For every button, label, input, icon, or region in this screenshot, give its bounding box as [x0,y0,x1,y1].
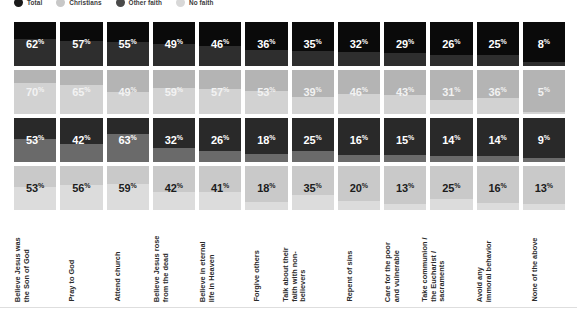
cell-value-label: 41% [199,182,241,195]
percent-sign: % [362,134,368,141]
percent-sign: % [84,86,90,93]
cell-value-label: 70% [14,86,56,99]
cell-value-label: 43% [384,86,426,99]
value-cell: 59% [107,166,149,210]
cell-value-label: 31% [430,86,472,99]
percent-sign: % [130,38,136,45]
value-cell: 32% [338,22,380,66]
value-cell: 49% [153,22,195,66]
percent-sign: % [454,86,460,93]
percent-sign: % [547,182,553,189]
value-cell: 18% [245,118,287,162]
cell-value-label: 8% [523,38,565,51]
category-label: Believe Jesus rose from the dead [153,214,170,302]
percent-sign: % [84,182,90,189]
cell-value-label: 18% [245,134,287,147]
cell-fill-bar [430,100,472,114]
cell-value-label: 26% [199,134,241,147]
legend-item[interactable]: Total [14,0,42,7]
value-cell: 15% [384,118,426,162]
percent-sign: % [269,182,275,189]
cell-value-label: 39% [292,86,334,99]
cell-fill-bar [430,156,472,162]
cell-value-label: 59% [153,86,195,99]
cell-value-label: 65% [60,86,102,99]
percent-sign: % [269,38,275,45]
category-label-cell: Pray to God [60,214,102,302]
legend-item-label: No faith [189,0,214,6]
value-cell: 62% [14,22,56,66]
percent-sign: % [38,86,44,93]
percent-sign: % [408,182,414,189]
category-label: Talk about their faith with non- believe… [283,214,309,302]
value-cell: 35% [292,166,334,210]
chart-legend: TotalChristiansOther faithNo faith [14,0,214,8]
cell-value-label: 25% [292,134,334,147]
value-cell: 59% [153,70,195,114]
value-cell: 5% [523,70,565,114]
cell-fill-bar [477,203,519,210]
category-label: Avoid any immoral behavior [476,214,493,302]
value-cell: 57% [199,70,241,114]
percent-sign: % [362,86,368,93]
value-cell: 8% [523,22,565,66]
cell-value-label: 25% [430,182,472,195]
percent-sign: % [544,86,550,93]
cell-fill-bar [384,204,426,210]
value-cell: 43% [384,70,426,114]
percent-sign: % [500,182,506,189]
cell-value-label: 53% [14,134,56,147]
cell-fill-bar [292,151,334,162]
baseline-divider [0,307,577,308]
percent-sign: % [177,182,183,189]
legend-item-label: Christians [69,0,101,6]
category-label: Believe in eternal life in Heaven [199,214,216,302]
percent-sign: % [500,86,506,93]
cell-fill-bar [384,155,426,162]
category-label-row: Believe Jesus was the Son of GodPray to … [14,214,565,302]
legend-swatch-icon [56,0,65,7]
cell-value-label: 57% [199,86,241,99]
value-cell: 9% [523,118,565,162]
category-label-cell: Believe in eternal life in Heaven [199,214,241,302]
cell-fill-bar [477,98,519,114]
cell-fill-bar [523,62,565,66]
category-label: Forgive others [254,214,263,302]
cell-value-label: 42% [60,134,102,147]
legend-swatch-icon [14,0,23,7]
value-cell: 46% [338,70,380,114]
cell-value-label: 35% [292,182,334,195]
legend-swatch-icon [176,0,185,7]
value-cell: 42% [60,118,102,162]
value-cell: 25% [430,166,472,210]
legend-item[interactable]: Other faith [116,0,162,7]
cell-fill-bar [523,204,565,210]
category-label-cell: Believe Jesus was the Son of God [14,214,56,302]
value-cell: 57% [60,22,102,66]
cell-value-label: 46% [199,38,241,51]
value-cell: 56% [60,166,102,210]
value-cell: 53% [245,70,287,114]
value-cell: 29% [384,22,426,66]
category-label-cell: Believe Jesus rose from the dead [153,214,195,302]
category-label-cell: Avoid any immoral behavior [477,214,519,302]
value-cell: 14% [477,118,519,162]
value-cell: 16% [338,118,380,162]
cell-value-label: 15% [384,134,426,147]
cell-fill-bar [199,192,241,210]
category-label: Attend church [115,214,124,302]
percent-sign: % [362,38,368,45]
legend-item[interactable]: Christians [56,0,101,7]
percent-sign: % [408,86,414,93]
percent-sign: % [130,86,136,93]
category-label-cell: Repent of sins [338,214,380,302]
value-cell: 25% [477,22,519,66]
percent-sign: % [544,38,550,45]
legend-item[interactable]: No faith [176,0,214,7]
value-cell: 36% [245,22,287,66]
value-cell: 26% [430,22,472,66]
percent-sign: % [500,38,506,45]
value-cell: 49% [107,70,149,114]
percent-sign: % [269,86,275,93]
cell-value-label: 32% [338,38,380,51]
